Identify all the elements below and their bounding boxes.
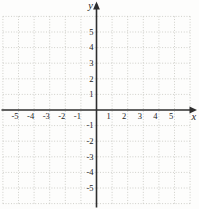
x-tick-label: 2 bbox=[122, 111, 126, 121]
y-tick-label: 3 bbox=[89, 58, 93, 68]
x-tick-label: 4 bbox=[153, 111, 158, 121]
coordinate-plane: -5-4-3-2-112345-5-4-3-2-112345yx bbox=[0, 0, 199, 209]
y-tick-label: 1 bbox=[89, 89, 93, 99]
x-tick-label: -5 bbox=[11, 111, 18, 121]
y-tick-label: 5 bbox=[89, 27, 93, 37]
coordinate-plane-figure: -5-4-3-2-112345-5-4-3-2-112345yx bbox=[0, 0, 199, 209]
x-tick-label: -3 bbox=[43, 111, 50, 121]
y-axis-label: y bbox=[87, 0, 93, 11]
y-tick-label: -4 bbox=[86, 167, 94, 177]
x-tick-label: -4 bbox=[27, 111, 35, 121]
x-tick-label: -1 bbox=[74, 111, 81, 121]
x-axis-label: x bbox=[191, 111, 197, 122]
x-tick-label: 1 bbox=[106, 111, 110, 121]
x-tick-label: 5 bbox=[169, 111, 173, 121]
y-tick-label: -1 bbox=[86, 120, 93, 130]
y-tick-label: 2 bbox=[89, 74, 93, 84]
y-tick-label: -5 bbox=[86, 183, 93, 193]
plot-background bbox=[0, 0, 199, 209]
x-tick-label: -2 bbox=[58, 111, 65, 121]
x-tick-label: 3 bbox=[138, 111, 142, 121]
y-tick-label: -3 bbox=[86, 152, 93, 162]
y-tick-label: -2 bbox=[86, 136, 93, 146]
